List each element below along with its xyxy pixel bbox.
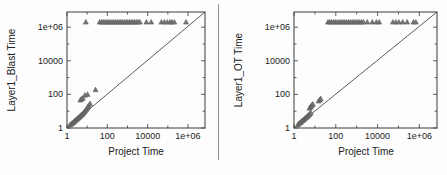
x-tick-label: 1: [64, 131, 69, 141]
data-point-triangle: [405, 19, 410, 24]
data-point-triangle: [93, 87, 98, 92]
right-plot: 1100100001e+061100100001e+06 Layer1_OT T…: [219, 0, 447, 175]
left-y-axis-title: Layer1_Blast Time: [6, 29, 17, 112]
y-tick-label: 100: [275, 89, 290, 99]
right-scatter-svg: 1100100001e+061100100001e+06: [219, 0, 447, 175]
diagonal-reference-line: [294, 12, 437, 128]
left-x-axis-title: Project Time: [108, 146, 164, 157]
data-point-triangle: [184, 19, 189, 24]
right-y-axis-title: Layer1_OT Time: [233, 33, 244, 107]
right-x-axis-title: Project Time: [338, 146, 394, 157]
data-point-triangle: [144, 19, 149, 24]
y-tick-label: 1: [285, 123, 290, 133]
x-tick-label: 10000: [135, 131, 160, 141]
x-tick-label: 1: [291, 131, 296, 141]
x-tick-label: 100: [328, 131, 343, 141]
x-tick-label: 1e+06: [175, 131, 200, 141]
data-point-triangle: [400, 19, 405, 24]
data-point-triangle: [83, 19, 88, 24]
y-tick-label: 10000: [265, 56, 290, 66]
left-plot: 1100100001e+061100100001e+06 Layer1_Blas…: [0, 0, 219, 175]
y-tick-label: 1e+06: [38, 22, 63, 32]
x-tick-label: 10000: [365, 131, 390, 141]
data-point-triangle: [149, 19, 154, 24]
y-tick-label: 100: [48, 89, 63, 99]
x-tick-label: 100: [100, 131, 115, 141]
y-tick-label: 1e+06: [265, 22, 290, 32]
data-point-triangle: [365, 19, 370, 24]
y-tick-label: 10000: [38, 56, 63, 66]
figure-canvas: 1100100001e+061100100001e+06 Layer1_Blas…: [0, 0, 447, 175]
x-tick-label: 1e+06: [407, 131, 432, 141]
y-tick-label: 1: [58, 123, 63, 133]
